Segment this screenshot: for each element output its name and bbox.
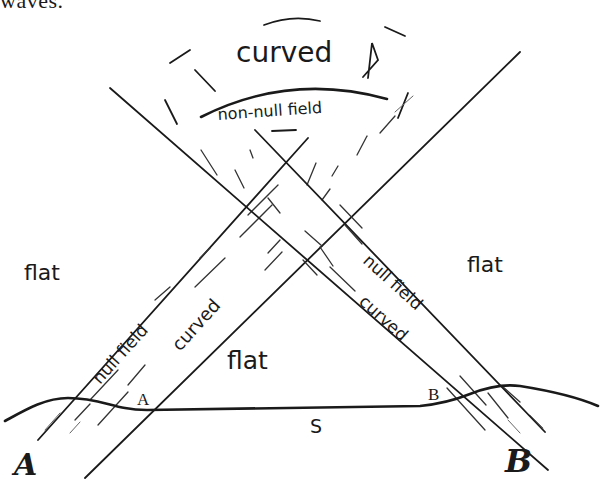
left-band-outer-edge [38, 138, 308, 440]
top-left-dash-2 [195, 70, 215, 91]
point-b-label: B [428, 385, 439, 404]
top-arc-mark [264, 18, 320, 25]
top-left-dash [170, 50, 190, 63]
right-band-inner-edge [110, 88, 548, 470]
top-curved-label: curved [236, 36, 332, 69]
middle-flat-label: flat [227, 346, 268, 375]
right-wave-band [110, 88, 548, 470]
non-null-field-label: non-null field [217, 98, 323, 124]
observer-a-label: A [11, 447, 37, 482]
surface-s-label: S [310, 415, 322, 437]
point-a-label: A [137, 390, 150, 409]
wave-diagram: curved non-null field flat flat flat nul… [0, 0, 604, 483]
left-band-curved-label: curved [167, 295, 224, 355]
surface-curve [5, 385, 598, 421]
observer-b-label: B [504, 442, 532, 480]
left-band-null-field-label: null field [88, 320, 152, 388]
caption-text: waves. [0, 0, 63, 14]
top-right-glyph [363, 43, 378, 78]
left-arc-dash [165, 100, 177, 124]
top-right-dash [385, 27, 405, 36]
top-small-dash [272, 130, 296, 131]
diagram-canvas: waves. [0, 0, 604, 483]
left-flat-label: flat [24, 260, 60, 285]
right-flat-label: flat [467, 252, 503, 277]
